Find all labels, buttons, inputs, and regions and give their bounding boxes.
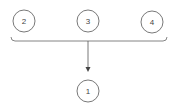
- node-4-label: 4: [150, 18, 155, 27]
- diagram-canvas: 2 3 4 1: [0, 0, 175, 109]
- arrow-head-icon: [86, 67, 91, 72]
- node-1: 1: [77, 80, 99, 102]
- node-4: 4: [141, 11, 163, 33]
- node-3: 3: [77, 10, 99, 32]
- node-3-label: 3: [86, 17, 91, 26]
- node-2: 2: [13, 10, 35, 32]
- node-2-label: 2: [22, 17, 27, 26]
- node-1-label: 1: [86, 87, 91, 96]
- merge-bracket: [11, 37, 167, 41]
